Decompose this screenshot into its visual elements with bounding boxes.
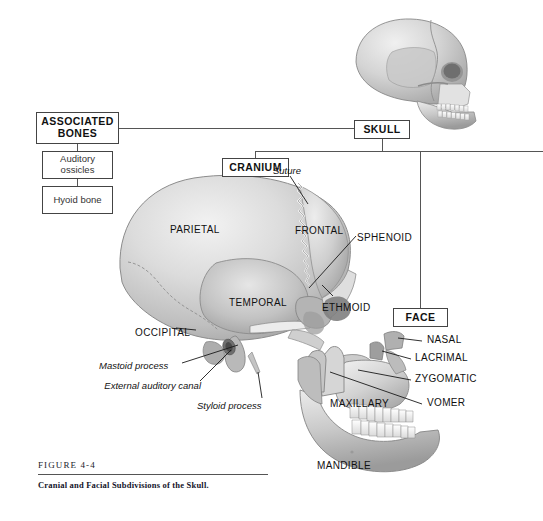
connector-to-face xyxy=(420,151,421,308)
box-skull[interactable]: SKULL xyxy=(354,120,410,139)
label-frontal: FRONTAL xyxy=(295,225,343,236)
label-parietal: PARIETAL xyxy=(170,224,220,235)
label-lacrimal: LACRIMAL xyxy=(415,352,468,363)
label-external-auditory-canal: External auditory canal xyxy=(56,381,201,392)
figure-caption: FIGURE 4-4 Cranial and Facial Subdivisio… xyxy=(38,460,268,490)
box-associated-bones[interactable]: ASSOCIATED BONES xyxy=(36,112,119,144)
label-zygomatic: ZYGOMATIC xyxy=(415,373,477,384)
box-skull-label: SKULL xyxy=(363,124,400,136)
label-sphenoid: SPHENOID xyxy=(357,232,412,243)
box-auditory-ossicles[interactable]: Auditory ossicles xyxy=(42,151,113,179)
box-face[interactable]: FACE xyxy=(393,308,448,327)
connector-skull-to-associated xyxy=(119,128,354,129)
caption-rule xyxy=(38,474,268,475)
label-mastoid-process: Mastoid process xyxy=(99,360,168,371)
figure-caption-text: Cranial and Facial Subdivisions of the S… xyxy=(38,480,268,490)
label-suture: Suture xyxy=(273,165,301,176)
label-vomer: VOMER xyxy=(427,397,465,408)
box-face-label: FACE xyxy=(406,312,436,324)
label-maxillary: MAXILLARY xyxy=(330,398,389,409)
connector-skull-down xyxy=(382,139,383,151)
label-temporal: TEMPORAL xyxy=(229,297,287,308)
label-styloid-process: Styloid process xyxy=(197,400,261,411)
connector-ossicles-to-hyoid xyxy=(77,179,78,186)
small-skull-view xyxy=(356,19,476,129)
box-hyoid-bone-label: Hyoid bone xyxy=(53,195,101,206)
label-occipital: OCCIPITAL xyxy=(135,327,190,338)
box-auditory-ossicles-label: Auditory ossicles xyxy=(43,154,112,175)
label-ethmoid: ETHMOID xyxy=(322,302,371,313)
box-hyoid-bone[interactable]: Hyoid bone xyxy=(42,186,113,214)
figure-number: FIGURE 4-4 xyxy=(38,460,268,470)
connector-associated-to-ossicles xyxy=(77,144,78,151)
label-mandible: MANDIBLE xyxy=(317,460,371,471)
box-associated-bones-label: ASSOCIATED BONES xyxy=(37,116,118,140)
label-nasal: NASAL xyxy=(427,334,462,345)
connector-skull-branch-bar xyxy=(255,151,543,152)
cranium-view xyxy=(120,175,356,374)
